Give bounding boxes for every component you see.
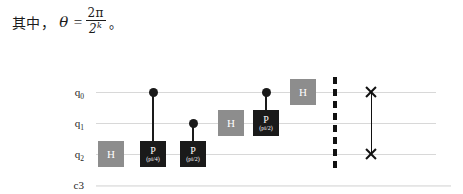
gate-p-pi4-param: (pi/4) — [146, 156, 159, 163]
register-label-c3: c3 — [58, 179, 84, 191]
gate-p-pi2-q2[interactable]: P (pi/2) — [180, 141, 206, 167]
gate-p-pi4-label: P — [150, 146, 156, 156]
fraction-numerator: 2π — [86, 7, 106, 20]
swap-marker-q2[interactable] — [364, 147, 378, 161]
gate-p-pi2-q1[interactable]: P (pi/2) — [253, 110, 279, 136]
register-label-q2-sub: 2 — [80, 154, 84, 163]
barrier-divider[interactable] — [333, 77, 337, 169]
control-line-q0-q2 — [152, 92, 154, 141]
gate-h-q0[interactable]: H — [290, 79, 316, 105]
gate-h-q0-label: H — [299, 86, 307, 98]
formula-caption: 其中 ， θ = 2π 2k 。 — [12, 8, 122, 36]
fraction-denominator: 2k — [87, 21, 104, 35]
swap-marker-q0[interactable] — [364, 85, 378, 99]
register-label-q1-sub: 1 — [80, 123, 84, 132]
register-label-q0-sub: 0 — [80, 92, 84, 101]
swap-connector-line — [371, 92, 373, 154]
gate-p-pi2-q1-param: (pi/2) — [259, 125, 272, 132]
denominator-base: 2 — [89, 22, 97, 36]
gate-h-q1[interactable]: H — [218, 110, 244, 136]
caption-period: 。 — [109, 13, 122, 32]
theta-fraction: 2π 2k — [86, 7, 106, 35]
gate-h-q2-label: H — [107, 148, 115, 160]
register-label-q1: q1 — [58, 117, 84, 132]
register-label-c3-base: c3 — [74, 179, 84, 191]
caption-prefix-text: 其中 — [12, 12, 41, 32]
equals-sign: = — [74, 14, 83, 31]
gate-p-pi2-q2-label: P — [190, 146, 196, 156]
register-label-q2: q2 — [58, 148, 84, 163]
control-dot-q0-second[interactable] — [262, 88, 271, 97]
denominator-exponent: k — [97, 21, 102, 30]
caption-comma: ， — [41, 12, 55, 32]
control-dot-q1[interactable] — [189, 119, 198, 128]
gate-h-q2[interactable]: H — [98, 141, 124, 167]
theta-symbol: θ — [59, 13, 68, 31]
register-label-q0: q0 — [58, 86, 84, 101]
gate-h-q1-label: H — [227, 117, 235, 129]
control-dot-q0[interactable] — [149, 88, 158, 97]
gate-p-pi2-q2-param: (pi/2) — [186, 156, 199, 163]
quantum-circuit-diagram: q0 q1 q2 c3 H P (pi/4) P (pi/2) H P (pi/… — [0, 55, 463, 194]
gate-p-pi2-q1-label: P — [263, 115, 269, 125]
gate-p-pi4-q2[interactable]: P (pi/4) — [140, 141, 166, 167]
wire-c3 — [96, 185, 451, 187]
